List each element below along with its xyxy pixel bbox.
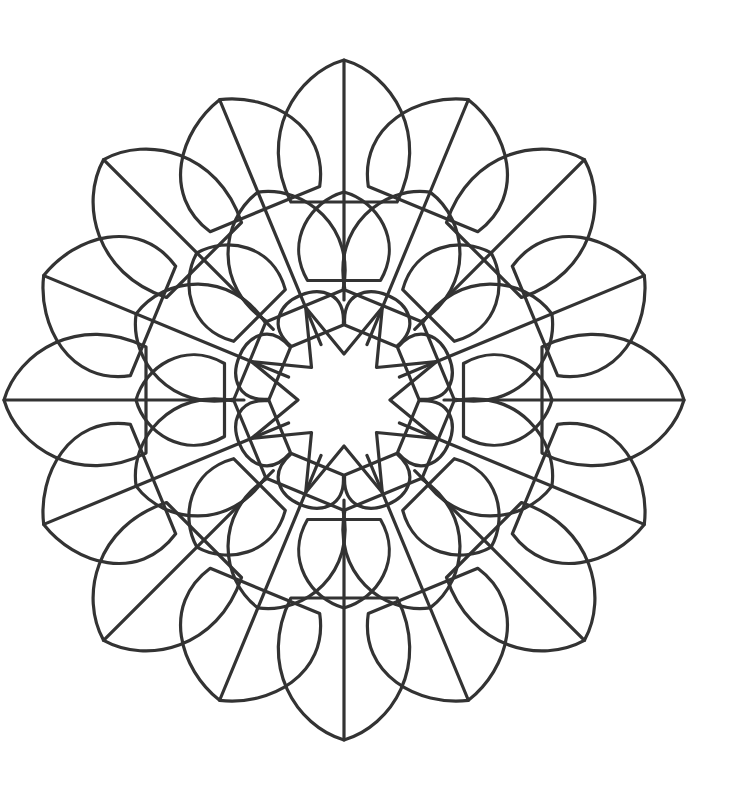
radial-line [415,160,585,330]
mandala-canvas [0,0,739,797]
radial-line [104,471,274,641]
radial-line [415,471,585,641]
eight-point-star [252,308,437,493]
radial-lines [4,60,684,740]
mandala-drawing [0,0,739,797]
radial-line [104,160,274,330]
center-star [252,308,437,493]
